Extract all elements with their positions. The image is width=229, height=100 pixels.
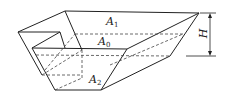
prismoid-diagram: A1 A0 A2 H: [0, 0, 229, 100]
a0-front-edge: [32, 48, 127, 49]
label-a0: A0: [98, 36, 110, 49]
right-back-edge: [170, 13, 199, 56]
mid-hidden-edge: [36, 55, 170, 56]
left-outer-edge: [18, 32, 42, 75]
back-left-inner-edge: [65, 11, 82, 50]
label-h: H: [198, 29, 209, 39]
label-a2: A2: [89, 74, 101, 87]
label-a1: A1: [106, 16, 118, 29]
prismoid-drawing: [0, 0, 229, 100]
top-right-edge: [127, 13, 199, 49]
